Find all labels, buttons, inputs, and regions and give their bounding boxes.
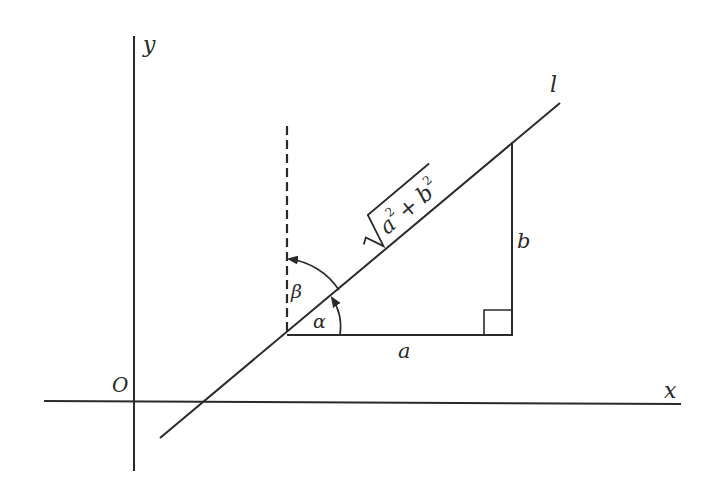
angle-alpha-label: α bbox=[313, 310, 326, 332]
hypotenuse-label: a 2 + b 2 bbox=[351, 164, 451, 256]
line-l-label: l bbox=[550, 72, 557, 97]
right-angle-marker bbox=[484, 310, 512, 335]
origin-label: O bbox=[112, 373, 128, 397]
angle-beta-label: β bbox=[290, 280, 302, 302]
x-axis bbox=[44, 401, 681, 404]
y-axis-label: y bbox=[142, 32, 156, 57]
x-axis-label: x bbox=[664, 378, 677, 403]
line-l bbox=[160, 103, 560, 438]
angle-alpha-arc bbox=[332, 298, 341, 335]
leg-b-label: b bbox=[517, 229, 530, 253]
leg-a-label: a bbox=[398, 339, 411, 363]
geometry-diagram: y x O l b a α β a 2 + b 2 bbox=[0, 0, 714, 486]
